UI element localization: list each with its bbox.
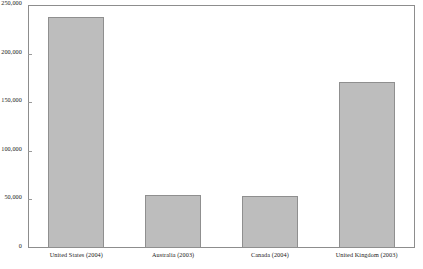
x-axis-tick-label: Australia (2003) xyxy=(152,251,194,259)
bar xyxy=(48,17,104,248)
y-axis-tick-label: 0 xyxy=(19,243,22,249)
y-axis-tick-label: 100,000 xyxy=(1,146,22,152)
x-axis-tick-label: United Kingdom (2003) xyxy=(336,251,398,259)
y-axis-tick-label: 200,000 xyxy=(1,49,22,55)
y-axis-tick-label: 150,000 xyxy=(1,97,22,103)
bar-chart: 050,000100,000150,000200,000250,000 Unit… xyxy=(0,0,423,269)
x-axis-tick-label: United States (2004) xyxy=(50,251,103,259)
x-axis-labels: United States (2004)Australia (2003)Cana… xyxy=(28,251,415,267)
bar xyxy=(242,196,298,248)
bar xyxy=(339,82,395,248)
y-axis-tick-label: 250,000 xyxy=(1,0,22,6)
y-axis: 050,000100,000150,000200,000250,000 xyxy=(0,0,28,269)
y-axis-tick-label: 50,000 xyxy=(4,194,22,200)
x-axis-tick-label: Canada (2004) xyxy=(251,251,289,259)
bar xyxy=(145,195,201,248)
bars-layer xyxy=(28,5,415,248)
